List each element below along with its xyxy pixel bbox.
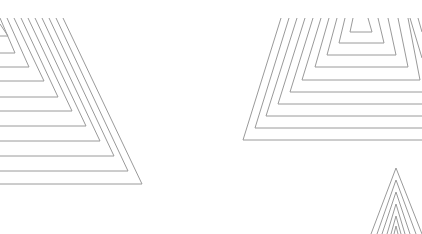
top-left-nested-triangles — [0, 18, 142, 184]
top-right-nested-pyramid — [243, 18, 422, 140]
decorative-line-art — [0, 0, 422, 234]
bottom-right-nested-chevrons — [371, 168, 422, 234]
